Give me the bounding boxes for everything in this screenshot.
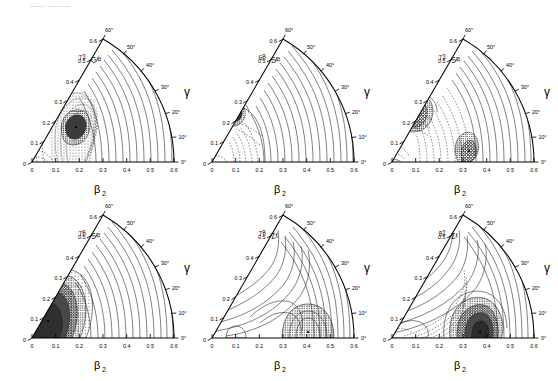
nucleus-label-72Se: 72 Se bbox=[438, 49, 462, 68]
svg-text:0.4: 0.4 bbox=[123, 167, 131, 173]
svg-text:0.1: 0.1 bbox=[391, 140, 399, 146]
svg-text:72: 72 bbox=[78, 52, 87, 61]
svg-text:50°: 50° bbox=[127, 220, 135, 226]
nucleus-label-82Zr: 82 Zr bbox=[438, 226, 460, 244]
svg-text:82: 82 bbox=[438, 228, 447, 237]
svg-text:Ge: Ge bbox=[90, 53, 103, 65]
x-axis-ticks bbox=[212, 158, 354, 162]
svg-text:0.6: 0.6 bbox=[170, 167, 178, 173]
svg-text:0.2: 0.2 bbox=[43, 296, 51, 302]
svg-text:0.5: 0.5 bbox=[507, 343, 515, 349]
pes-panel-68Se: 0 0.1 0.2 0.3 0.4 0.5 0.6 0 0.1 0.2 0.3 … bbox=[186, 14, 372, 204]
svg-text:78: 78 bbox=[258, 228, 267, 237]
svg-text:20°: 20° bbox=[172, 109, 180, 115]
svg-text:0: 0 bbox=[211, 343, 214, 349]
x-axis-ticks bbox=[392, 158, 534, 162]
svg-text:0.1: 0.1 bbox=[232, 167, 240, 173]
svg-text:50°: 50° bbox=[487, 44, 495, 50]
svg-text:0.2: 0.2 bbox=[436, 343, 444, 349]
svg-text:0: 0 bbox=[23, 161, 26, 167]
pes-panel-82Zr: 0 0.1 0.2 0.3 0.4 0.5 0.6 0 0.1 0.2 0.3 … bbox=[366, 190, 552, 380]
gamma-symbol: γ bbox=[544, 85, 550, 99]
x-axis-tick-labels: 0 0.1 0.2 0.3 0.4 0.5 0.6 bbox=[211, 167, 358, 173]
contour-field bbox=[392, 32, 537, 162]
x-axis-tick-labels: 0 0.1 0.2 0.3 0.4 0.5 0.6 bbox=[211, 343, 358, 349]
figure-root: —— ——— bbox=[0, 0, 558, 381]
cropped-header-text: —— ——— bbox=[30, 0, 150, 12]
svg-text:0.2: 0.2 bbox=[403, 120, 411, 126]
contour-field bbox=[32, 31, 178, 162]
svg-text:0.1: 0.1 bbox=[211, 316, 219, 322]
pes-panel-78Se: 0 0.1 0.2 0.3 0.4 0.5 0.6 0 0.1 0.2 0.3 … bbox=[6, 190, 192, 380]
svg-text:0: 0 bbox=[383, 337, 386, 343]
svg-text:0.6: 0.6 bbox=[450, 38, 458, 44]
svg-text:0.3: 0.3 bbox=[459, 167, 467, 173]
svg-text:0.4: 0.4 bbox=[123, 343, 131, 349]
nucleus-label-78Zr: 78 Zr bbox=[258, 226, 280, 244]
svg-text:30°: 30° bbox=[161, 260, 169, 266]
angle-labels: 0° 10° 20° 30° 40° 50° 60° bbox=[105, 27, 187, 165]
svg-text:40°: 40° bbox=[146, 238, 154, 244]
angle-ticks bbox=[103, 211, 179, 338]
svg-text:0.6: 0.6 bbox=[350, 343, 358, 349]
svg-text:0.2: 0.2 bbox=[76, 167, 84, 173]
svg-text:0.6: 0.6 bbox=[170, 343, 178, 349]
svg-text:0.6: 0.6 bbox=[450, 214, 458, 220]
svg-text:0.6: 0.6 bbox=[270, 38, 278, 44]
svg-text:0.5: 0.5 bbox=[327, 343, 335, 349]
svg-text:0.4: 0.4 bbox=[303, 343, 311, 349]
svg-text:68: 68 bbox=[258, 52, 267, 61]
svg-text:0.5: 0.5 bbox=[147, 167, 155, 173]
nucleus-label-68Se: 68 Se bbox=[258, 49, 282, 68]
svg-text:0: 0 bbox=[23, 337, 26, 343]
svg-text:0.2: 0.2 bbox=[223, 296, 231, 302]
pes-panel-72Se: 0 0.1 0.2 0.3 0.4 0.5 0.6 0 0.1 0.2 0.3 … bbox=[366, 14, 552, 204]
angle-ticks bbox=[283, 35, 359, 162]
svg-text:0.6: 0.6 bbox=[90, 214, 98, 220]
svg-text:20°: 20° bbox=[352, 109, 360, 115]
svg-text:β: β bbox=[94, 359, 100, 371]
svg-text:78: 78 bbox=[78, 228, 87, 237]
svg-text:30°: 30° bbox=[341, 84, 349, 90]
svg-text:10°: 10° bbox=[539, 134, 547, 140]
svg-text:0.3: 0.3 bbox=[279, 343, 287, 349]
svg-text:72: 72 bbox=[438, 52, 447, 61]
svg-text:0.1: 0.1 bbox=[52, 167, 60, 173]
svg-text:Zr: Zr bbox=[450, 230, 460, 241]
contour-field bbox=[32, 208, 173, 338]
svg-text:0.5: 0.5 bbox=[327, 167, 335, 173]
svg-text:0.1: 0.1 bbox=[52, 343, 60, 349]
svg-text:0.6: 0.6 bbox=[530, 343, 538, 349]
svg-text:60°: 60° bbox=[465, 27, 473, 33]
svg-text:60°: 60° bbox=[105, 27, 113, 33]
svg-text:0.3: 0.3 bbox=[459, 343, 467, 349]
svg-text:Se: Se bbox=[450, 54, 462, 65]
x-axis-tick-labels: 0 0.1 0.2 0.3 0.4 0.5 0.6 bbox=[31, 343, 178, 349]
svg-text:40°: 40° bbox=[506, 238, 514, 244]
svg-text:0.6: 0.6 bbox=[270, 214, 278, 220]
svg-text:0: 0 bbox=[31, 343, 34, 349]
svg-text:0.3: 0.3 bbox=[235, 99, 243, 105]
svg-text:30°: 30° bbox=[521, 84, 529, 90]
svg-text:0.2: 0.2 bbox=[256, 167, 263, 173]
svg-text:0.6: 0.6 bbox=[90, 38, 98, 44]
svg-text:20°: 20° bbox=[172, 285, 180, 291]
svg-text:β: β bbox=[454, 359, 460, 371]
svg-text:40°: 40° bbox=[506, 62, 514, 68]
svg-text:50°: 50° bbox=[307, 220, 315, 226]
beta2-axis-label: β 2 bbox=[274, 359, 286, 373]
svg-text:0.3: 0.3 bbox=[55, 99, 63, 105]
svg-text:0.6: 0.6 bbox=[350, 167, 358, 173]
svg-text:0.3: 0.3 bbox=[99, 343, 107, 349]
svg-text:60°: 60° bbox=[465, 203, 473, 209]
svg-text:0.2: 0.2 bbox=[43, 120, 51, 126]
svg-text:0.1: 0.1 bbox=[211, 140, 219, 146]
svg-text:0.6: 0.6 bbox=[530, 167, 538, 173]
svg-text:60°: 60° bbox=[285, 203, 293, 209]
svg-text:30°: 30° bbox=[161, 84, 169, 90]
svg-text:60°: 60° bbox=[285, 27, 293, 33]
svg-text:0.5: 0.5 bbox=[507, 167, 515, 173]
svg-text:0.4: 0.4 bbox=[66, 79, 74, 85]
svg-text:0.3: 0.3 bbox=[415, 275, 423, 281]
svg-text:0.3: 0.3 bbox=[235, 275, 243, 281]
